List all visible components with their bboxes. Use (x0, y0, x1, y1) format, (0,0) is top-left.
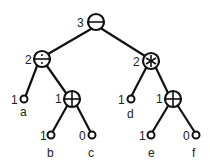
leaf-f-name: f (192, 146, 196, 160)
node-plus-right: 1 (156, 91, 181, 107)
edge-div-a (26, 66, 37, 95)
tree-edges (26, 29, 194, 131)
leaf-f-value: 0 (183, 129, 190, 143)
node-root-minus: 3 (77, 14, 104, 30)
node-multiply-label: 2 (133, 55, 140, 69)
node-root-label: 3 (77, 16, 84, 30)
leaf-a-name: a (20, 105, 27, 119)
node-plus-left-label: 1 (55, 92, 62, 106)
edge-root-mul (102, 29, 145, 56)
leaf-node-icon (193, 132, 200, 139)
leaf-d-value: 1 (118, 93, 125, 107)
leaf-f: 0 f (183, 129, 200, 160)
node-divide-label: 2 (25, 53, 32, 67)
leaf-node-icon (21, 96, 28, 103)
edge-plus1-c (77, 106, 90, 131)
edge-plus2-e (153, 106, 168, 131)
leaf-c: 0 c (79, 129, 96, 160)
leaf-a: 1 a (11, 93, 28, 119)
leaf-c-name: c (88, 146, 94, 160)
edge-plus2-f (178, 106, 194, 131)
node-divide: 2 (25, 51, 50, 67)
edge-mul-d (132, 68, 146, 95)
leaf-b-name: b (47, 146, 54, 160)
leaf-node-icon (128, 96, 135, 103)
node-multiply: 2 (133, 53, 159, 69)
leaf-c-value: 0 (79, 129, 86, 143)
edge-mul-plus2 (156, 68, 168, 93)
node-plus-left: 1 (55, 91, 80, 107)
leaf-node-icon (148, 132, 155, 139)
leaf-b-value: 1 (40, 129, 47, 143)
edge-div-plus1 (47, 66, 66, 93)
leaf-a-value: 1 (11, 93, 18, 107)
leaf-e-value: 1 (139, 129, 146, 143)
edge-root-div (48, 29, 91, 54)
node-plus-right-label: 1 (156, 92, 163, 106)
leaf-d-name: d (127, 107, 134, 121)
leaf-b: 1 b (40, 129, 55, 160)
leaf-d: 1 d (118, 93, 135, 121)
leaf-e: 1 e (139, 129, 155, 160)
expression-tree-diagram: 3 2 2 1 a 1 1 b 0 c (0, 0, 210, 168)
leaf-node-icon (89, 132, 96, 139)
edge-plus1-b (53, 106, 67, 131)
leaf-node-icon (48, 132, 55, 139)
leaf-e-name: e (148, 146, 155, 160)
